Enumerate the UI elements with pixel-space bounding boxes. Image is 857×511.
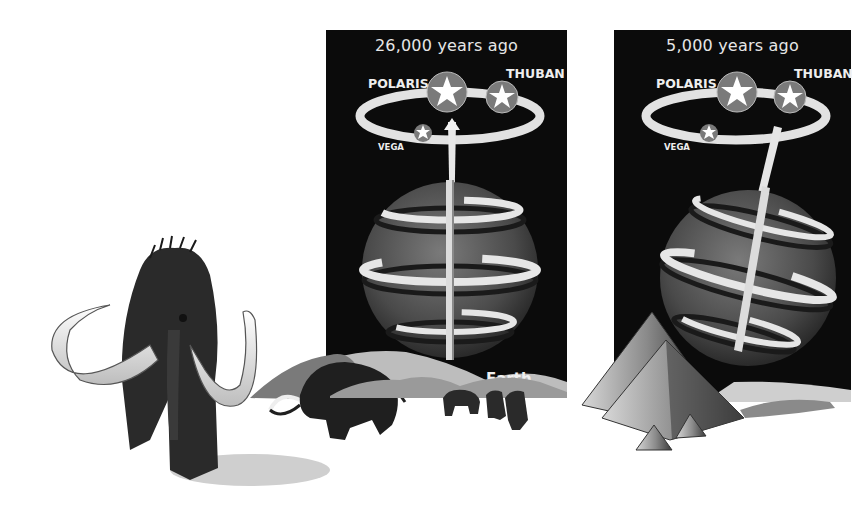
pyramids-icon (582, 312, 835, 450)
woolly-mammoth-icon (52, 236, 257, 480)
foreground-artwork (0, 0, 857, 511)
trunk (167, 330, 180, 440)
desert-rocks (740, 400, 835, 418)
